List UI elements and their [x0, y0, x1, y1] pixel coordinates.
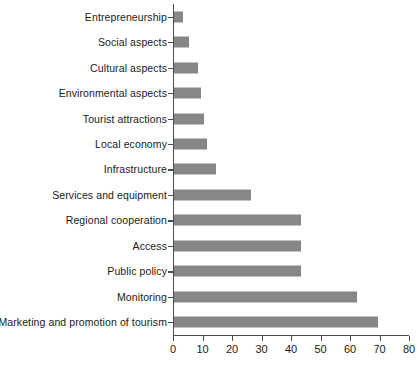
- bar-row: Cultural aspects: [0, 55, 419, 80]
- x-axis-tick: [203, 336, 204, 341]
- category-label: Cultural aspects: [90, 62, 167, 74]
- category-label: Regional cooperation: [66, 214, 167, 226]
- x-axis-tick-label: 40: [285, 343, 297, 355]
- bar-rows-container: EntrepreneurshipSocial aspectsCultural a…: [0, 4, 419, 335]
- category-label: Tourist attractions: [83, 113, 167, 125]
- bar-row: Public policy: [0, 259, 419, 284]
- bar: [174, 88, 201, 99]
- category-label: Environmental aspects: [59, 87, 167, 99]
- category-label: Social aspects: [98, 36, 167, 48]
- bar-row: Monitoring: [0, 284, 419, 309]
- x-axis-tick-label: 10: [196, 343, 208, 355]
- category-label: Services and equipment: [52, 189, 167, 201]
- x-axis-tick-label: 70: [373, 343, 385, 355]
- category-label: Public policy: [107, 265, 167, 277]
- x-axis-tick-label: 80: [403, 343, 415, 355]
- bar: [174, 266, 301, 277]
- x-axis-tick: [291, 336, 292, 341]
- x-axis-tick-label: 30: [255, 343, 267, 355]
- bar: [174, 291, 357, 302]
- bar: [174, 113, 204, 124]
- category-label: Access: [133, 240, 167, 252]
- bar-row: Social aspects: [0, 29, 419, 54]
- bar: [174, 164, 215, 175]
- bar: [174, 215, 301, 226]
- bar-row: Access: [0, 233, 419, 258]
- x-axis-tick: [173, 336, 174, 341]
- bar: [174, 189, 251, 200]
- bar-row: Marketing and promotion of tourism: [0, 310, 419, 335]
- horizontal-bar-chart: EntrepreneurshipSocial aspectsCultural a…: [0, 0, 419, 365]
- x-axis-tick: [262, 336, 263, 341]
- category-label: Marketing and promotion of tourism: [0, 316, 167, 328]
- x-axis-tick: [350, 336, 351, 341]
- bar-row: Regional cooperation: [0, 208, 419, 233]
- bar: [174, 62, 198, 73]
- category-label: Local economy: [95, 138, 167, 150]
- x-axis-tick: [409, 336, 410, 341]
- bar: [174, 317, 378, 328]
- category-label: Entrepreneurship: [85, 11, 167, 23]
- bar: [174, 37, 189, 48]
- x-axis-tick-label: 20: [226, 343, 238, 355]
- bar-row: Environmental aspects: [0, 80, 419, 105]
- x-axis-tick-label: 60: [344, 343, 356, 355]
- bar-row: Entrepreneurship: [0, 4, 419, 29]
- category-label: Monitoring: [117, 291, 167, 303]
- category-label: Infrastructure: [104, 163, 167, 175]
- bar: [174, 139, 206, 150]
- x-axis-tick-label: 50: [314, 343, 326, 355]
- x-axis-tick: [321, 336, 322, 341]
- bar-row: Infrastructure: [0, 157, 419, 182]
- bar-row: Local economy: [0, 131, 419, 156]
- y-axis-line: [173, 4, 174, 335]
- x-axis-tick: [380, 336, 381, 341]
- x-axis-tick: [232, 336, 233, 341]
- x-axis-tick-label: 0: [170, 343, 176, 355]
- bar-row: Tourist attractions: [0, 106, 419, 131]
- bar: [174, 11, 183, 22]
- bar: [174, 240, 301, 251]
- bar-row: Services and equipment: [0, 182, 419, 207]
